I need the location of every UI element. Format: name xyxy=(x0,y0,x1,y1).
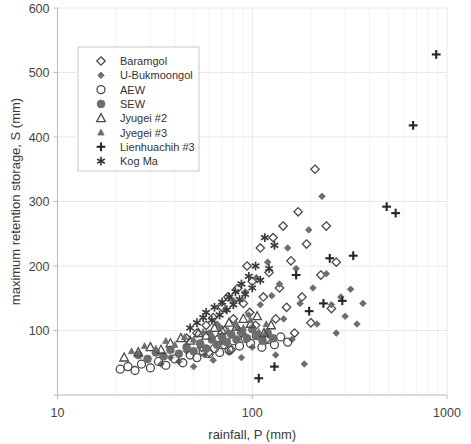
data-point xyxy=(175,350,183,358)
data-point xyxy=(257,301,264,308)
data-point xyxy=(270,362,279,371)
x-tick-label: 100 xyxy=(242,406,263,420)
data-point xyxy=(141,343,147,349)
data-point xyxy=(271,241,279,250)
data-point xyxy=(319,299,328,308)
y-tick-label: 600 xyxy=(29,2,50,16)
legend-item-label: Jyegei #3 xyxy=(120,127,167,139)
data-point xyxy=(311,165,319,173)
y-tick-label: 500 xyxy=(29,66,50,80)
legend[interactable]: BaramgolU-BukmoongolAEWSEWJyugei #2Jyege… xyxy=(78,47,199,171)
legend-item-label: AEW xyxy=(120,84,146,96)
data-point xyxy=(349,251,358,260)
data-point xyxy=(272,352,279,359)
x-tick-label: 10 xyxy=(51,406,65,420)
data-point xyxy=(322,222,330,230)
data-point xyxy=(202,345,210,353)
legend-item-label: Baramgol xyxy=(120,55,167,67)
data-point xyxy=(269,233,277,241)
data-point xyxy=(277,333,285,341)
data-point xyxy=(259,337,267,345)
data-point xyxy=(116,365,124,373)
y-tick-label: 300 xyxy=(29,195,50,209)
data-point xyxy=(305,307,314,316)
data-point xyxy=(409,121,418,130)
data-point xyxy=(190,347,198,355)
data-point xyxy=(144,355,152,363)
data-point xyxy=(268,292,275,299)
data-point xyxy=(280,316,287,323)
legend-item-label: SEW xyxy=(120,98,146,110)
data-point xyxy=(391,209,400,218)
data-point xyxy=(163,337,169,343)
data-point xyxy=(261,233,269,242)
data-point xyxy=(259,293,267,301)
data-point xyxy=(245,272,253,281)
data-point xyxy=(354,321,361,328)
data-point xyxy=(360,300,367,307)
data-point xyxy=(254,374,263,383)
legend-item-label: U-Bukmoongol xyxy=(120,69,193,81)
data-point xyxy=(263,321,269,327)
data-point xyxy=(264,259,271,266)
data-point xyxy=(248,284,256,293)
data-point xyxy=(269,334,277,342)
y-tick-label: 100 xyxy=(29,324,50,338)
data-point xyxy=(382,202,391,211)
data-point xyxy=(213,341,221,349)
legend-item-label: Jyugei #2 xyxy=(120,112,167,124)
chart-canvas: 100200300400500600101001000rainfall, P (… xyxy=(0,0,471,444)
data-point xyxy=(301,361,308,368)
data-point xyxy=(256,244,264,252)
data-point xyxy=(131,366,139,374)
data-point xyxy=(279,222,287,230)
y-tick-label: 400 xyxy=(29,131,50,145)
data-point xyxy=(190,363,197,370)
data-point xyxy=(342,313,349,320)
data-point xyxy=(120,353,129,361)
data-point xyxy=(232,336,240,344)
y-tick-label: 200 xyxy=(29,260,50,274)
data-point xyxy=(298,293,306,301)
data-point xyxy=(302,240,310,248)
legend-item-label: Kog Ma xyxy=(120,155,159,167)
data-point xyxy=(284,338,292,346)
data-point xyxy=(284,245,291,252)
data-point xyxy=(319,193,326,200)
filled-circle-icon xyxy=(97,100,105,108)
scatter-chart: 100200300400500600101001000rainfall, P (… xyxy=(0,0,471,444)
data-point xyxy=(294,208,302,216)
x-tick-label: 1000 xyxy=(433,406,461,420)
y-axis-title: maximum retention storage, S (mm) xyxy=(8,98,23,305)
data-point xyxy=(432,50,441,59)
data-point xyxy=(292,271,301,280)
legend-item-label: Lienhuachih #3 xyxy=(120,141,195,153)
data-point xyxy=(223,338,231,346)
data-point xyxy=(243,334,251,342)
data-point xyxy=(238,354,245,361)
data-point xyxy=(287,257,295,265)
axis-labels-layer: 100200300400500600101001000rainfall, P (… xyxy=(8,2,461,443)
series-baramgol xyxy=(182,165,340,357)
data-point xyxy=(238,280,246,289)
data-point xyxy=(128,348,134,354)
x-axis-title: rainfall, P (mm) xyxy=(208,427,296,442)
data-point xyxy=(347,286,354,293)
data-point xyxy=(272,315,280,323)
data-point xyxy=(282,303,290,311)
